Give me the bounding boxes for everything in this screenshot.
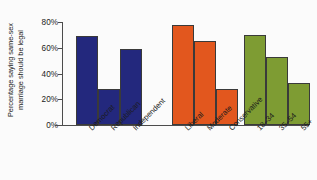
y-axis-tick-labels: 0%20%40%60%80% <box>30 0 58 180</box>
y-axis-tick-label: 80% <box>32 18 58 27</box>
y-axis-title-line-2: marriage should be legal <box>16 5 26 135</box>
y-axis-line <box>62 22 63 125</box>
y-axis-title-line-1: Percentage saying same-sex <box>6 5 16 135</box>
bar <box>76 36 98 125</box>
y-axis-tick-mark <box>58 48 63 49</box>
y-axis-tick-mark <box>58 22 63 23</box>
bar <box>172 25 194 125</box>
plot-area <box>62 22 311 125</box>
y-axis-tick-label: 20% <box>32 95 58 104</box>
y-axis-tick-label: 60% <box>32 43 58 52</box>
y-axis-tick-mark <box>58 74 63 75</box>
y-axis-tick-mark <box>58 99 63 100</box>
y-axis-tick-label: 40% <box>32 69 58 78</box>
bar-chart: Percentage saying same-sex marriage shou… <box>0 0 317 180</box>
x-axis-tick-labels: DemocratRepublicanIndependentLiberalMode… <box>62 126 317 180</box>
